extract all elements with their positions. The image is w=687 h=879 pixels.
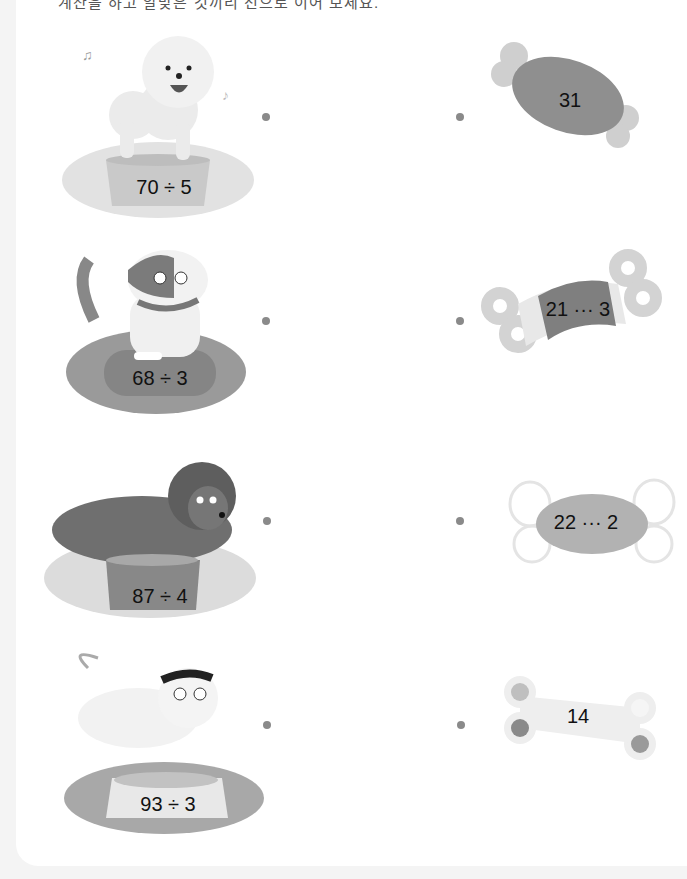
left-item-4: 93 ÷ 3 [58,648,278,838]
star-icon [631,699,649,717]
right-dot-1[interactable] [456,113,464,121]
expression-label: 68 ÷ 3 [132,367,187,390]
left-dot-1[interactable] [262,113,270,121]
instruction-header: 계산을 하고 알맞은 것끼리 선으로 이어 보세요. [58,0,379,12]
svg-text:♫: ♫ [82,47,93,63]
right-dot-4[interactable] [457,721,465,729]
heart-icon [511,683,529,701]
right-dot-3[interactable] [456,517,464,525]
left-dot-2[interactable] [262,317,270,325]
right-dot-2[interactable] [456,317,464,325]
right-item-1: 31 [490,38,650,148]
svg-text:♪: ♪ [222,87,229,103]
music-note-icon [631,735,649,753]
expression-label: 93 ÷ 3 [140,793,195,816]
expression-label: 70 ÷ 5 [136,176,191,199]
right-item-2: 21 ··· 3 [478,246,658,361]
left-item-3: 87 ÷ 4 [42,450,262,620]
answer-label: 31 [559,89,581,112]
right-item-4: 14 [500,672,660,768]
right-item-3: 22 ··· 2 [508,478,678,568]
left-item-2: 68 ÷ 3 [64,240,264,415]
left-item-1: ♫ ♪ 70 ÷ 5 [58,30,258,220]
exclamation-icon [511,719,529,737]
expression-label: 87 ÷ 4 [132,585,187,608]
left-dot-4[interactable] [263,721,271,729]
answer-label: 21 ··· 3 [546,298,610,321]
answer-label: 22 ··· 2 [554,511,618,534]
left-dot-3[interactable] [263,517,271,525]
answer-label: 14 [567,705,589,728]
